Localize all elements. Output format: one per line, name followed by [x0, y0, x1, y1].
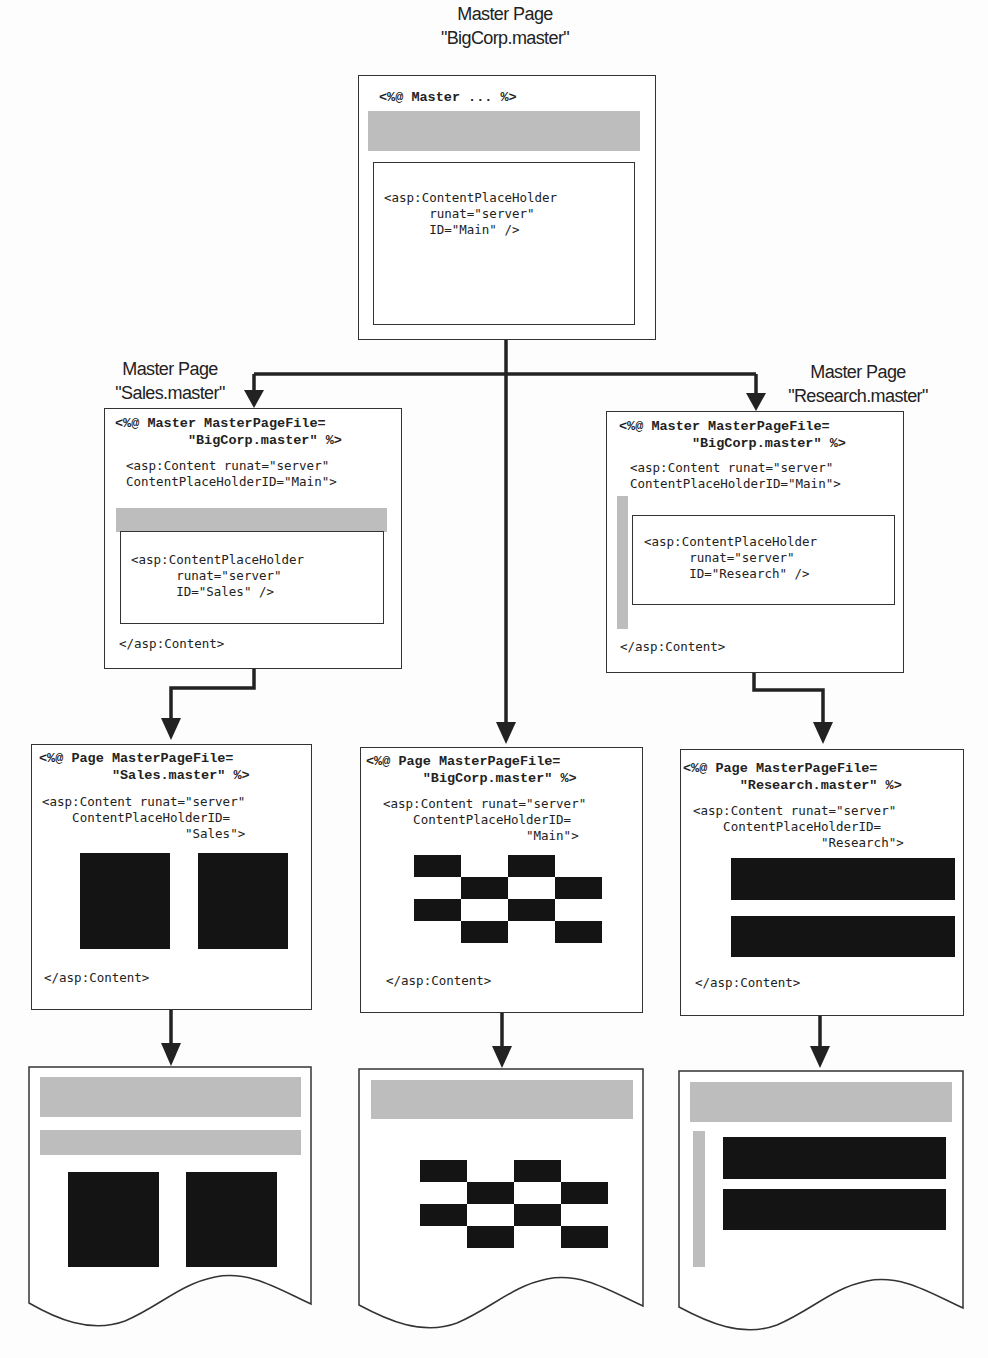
- sales-content-block-1: [80, 853, 170, 949]
- research-content-bar-2: [731, 916, 955, 957]
- sales-master-label: Master Page "Sales.master": [100, 357, 240, 405]
- research-master-label: Master Page "Research.master": [778, 360, 938, 408]
- rendered-research-bar-1: [723, 1137, 946, 1179]
- research-page-content-close: </asp:Content>: [695, 975, 800, 991]
- main-checker-cell: [461, 877, 508, 899]
- main-page-content-close: </asp:Content>: [386, 973, 491, 989]
- sales-master-content-open: <asp:Content runat="server" ContentPlace…: [126, 458, 337, 490]
- rendered-checker-cell: [420, 1160, 467, 1182]
- research-page-box: <%@ Page MasterPageFile= "Research.maste…: [680, 749, 964, 1016]
- main-page-box: <%@ Page MasterPageFile= "BigCorp.master…: [360, 747, 643, 1013]
- rendered-checker-cell: [514, 1204, 561, 1226]
- bigcorp-master-label-line1: Master Page: [405, 2, 605, 26]
- research-placeholder-code: <asp:ContentPlaceHolder runat="server" I…: [644, 534, 817, 582]
- sales-page-box: <%@ Page MasterPageFile= "Sales.master" …: [31, 744, 312, 1010]
- main-content-placeholder: <asp:ContentPlaceHolder runat="server" I…: [373, 162, 635, 325]
- research-master-label-line1: Master Page: [778, 360, 938, 384]
- rendered-bigcorp-header: [371, 1080, 633, 1119]
- research-page-content-open: <asp:Content runat="server" ContentPlace…: [693, 803, 904, 851]
- bigcorp-master-directive: <%@ Master ... %>: [379, 89, 517, 106]
- main-checker-cell: [461, 921, 508, 943]
- sales-content-placeholder: <asp:ContentPlaceHolder runat="server" I…: [120, 531, 384, 624]
- rendered-bigcorp-header: [690, 1082, 952, 1122]
- research-master-content-open: <asp:Content runat="server" ContentPlace…: [630, 460, 841, 492]
- rendered-sales-block-1: [68, 1172, 159, 1267]
- rendered-checker-cell: [420, 1204, 467, 1226]
- rendered-research-bar-2: [723, 1189, 946, 1230]
- sales-placeholder-code: <asp:ContentPlaceHolder runat="server" I…: [131, 552, 304, 600]
- sales-master-inherited-region: [116, 508, 387, 532]
- rendered-checker-cell: [561, 1226, 608, 1248]
- main-checker-cell: [414, 855, 461, 877]
- main-checker-cell: [555, 921, 602, 943]
- research-master-box: <%@ Master MasterPageFile= "BigCorp.mast…: [606, 411, 904, 673]
- bigcorp-master-label-line2: "BigCorp.master": [405, 26, 605, 50]
- research-master-label-line2: "Research.master": [778, 384, 938, 408]
- sales-content-block-2: [198, 853, 288, 949]
- research-page-directive: <%@ Page MasterPageFile= "Research.maste…: [683, 760, 902, 794]
- sales-master-content-close: </asp:Content>: [119, 636, 224, 652]
- research-master-inherited-region: [617, 496, 628, 629]
- rendered-checker-cell: [467, 1226, 514, 1248]
- rendered-research-sidebar: [693, 1131, 705, 1267]
- main-placeholder-code: <asp:ContentPlaceHolder runat="server" I…: [384, 190, 557, 238]
- rendered-checker-cell: [561, 1182, 608, 1204]
- research-master-directive: <%@ Master MasterPageFile= "BigCorp.mast…: [619, 418, 846, 452]
- rendered-checker-cell: [467, 1182, 514, 1204]
- main-checker-cell: [555, 877, 602, 899]
- sales-master-label-line2: "Sales.master": [100, 381, 240, 405]
- sales-master-box: <%@ Master MasterPageFile= "BigCorp.mast…: [104, 408, 402, 669]
- bigcorp-master-header-region: [368, 111, 640, 151]
- main-checker-cell: [414, 899, 461, 921]
- research-content-bar-1: [731, 858, 955, 900]
- rendered-checker-cell: [514, 1160, 561, 1182]
- main-page-directive: <%@ Page MasterPageFile= "BigCorp.master…: [366, 753, 577, 787]
- sales-master-label-line1: Master Page: [100, 357, 240, 381]
- rendered-sales-block-2: [186, 1172, 277, 1267]
- bigcorp-master-label: Master Page "BigCorp.master": [405, 2, 605, 50]
- research-master-content-close: </asp:Content>: [620, 639, 725, 655]
- bigcorp-master-box: <%@ Master ... %> <asp:ContentPlaceHolde…: [358, 75, 656, 340]
- main-checker-cell: [508, 855, 555, 877]
- rendered-bigcorp-header: [40, 1077, 301, 1117]
- sales-page-content-close: </asp:Content>: [44, 970, 149, 986]
- rendered-sales-header: [40, 1130, 301, 1155]
- research-content-placeholder: <asp:ContentPlaceHolder runat="server" I…: [632, 515, 895, 605]
- sales-page-directive: <%@ Page MasterPageFile= "Sales.master" …: [39, 750, 250, 784]
- main-checker-cell: [508, 899, 555, 921]
- main-page-content-open: <asp:Content runat="server" ContentPlace…: [383, 796, 586, 844]
- sales-page-content-open: <asp:Content runat="server" ContentPlace…: [42, 794, 245, 842]
- sales-master-directive: <%@ Master MasterPageFile= "BigCorp.mast…: [115, 415, 342, 449]
